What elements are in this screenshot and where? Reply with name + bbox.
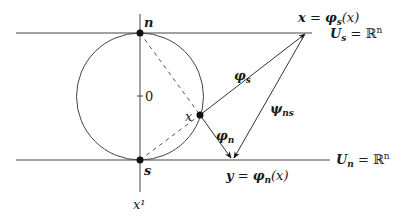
zero-label: 0 bbox=[145, 89, 153, 104]
psi-ns-label: ψns bbox=[270, 101, 294, 118]
north-point bbox=[137, 30, 144, 37]
south-label: s bbox=[144, 163, 152, 178]
phi-s-label: φs bbox=[234, 68, 251, 85]
x-label: x bbox=[185, 109, 193, 124]
bottom-image-label: y = φn(x) bbox=[225, 168, 289, 185]
top-image-label: x = φs(x) bbox=[297, 10, 359, 27]
phi-n-label: φn bbox=[216, 128, 234, 145]
stereographic-diagram: n s x 0 x¹ x = φs(x) Us = ℝn Un = ℝn y =… bbox=[0, 0, 401, 219]
south-point bbox=[137, 157, 144, 164]
phi-s-arrow bbox=[200, 34, 305, 115]
top-plane-label: Us = ℝn bbox=[330, 25, 382, 43]
axis-label: x¹ bbox=[133, 197, 146, 212]
psi-ns-arrow bbox=[234, 34, 305, 158]
bottom-plane-label: Un = ℝn bbox=[336, 151, 390, 169]
north-label: n bbox=[144, 15, 153, 30]
x-point bbox=[197, 112, 204, 119]
